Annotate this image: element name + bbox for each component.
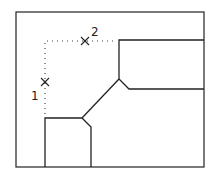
diagonal-connector — [82, 79, 119, 118]
drawing-canvas: 1 2 — [0, 0, 215, 174]
upper-channel-outline — [119, 40, 204, 89]
dotted-construction-lines — [45, 41, 117, 114]
marker-1-label: 1 — [31, 89, 39, 103]
pick-point-marker-1 — [41, 78, 49, 86]
lower-left-box-outline — [45, 118, 91, 167]
marker-2-label: 2 — [91, 25, 99, 39]
